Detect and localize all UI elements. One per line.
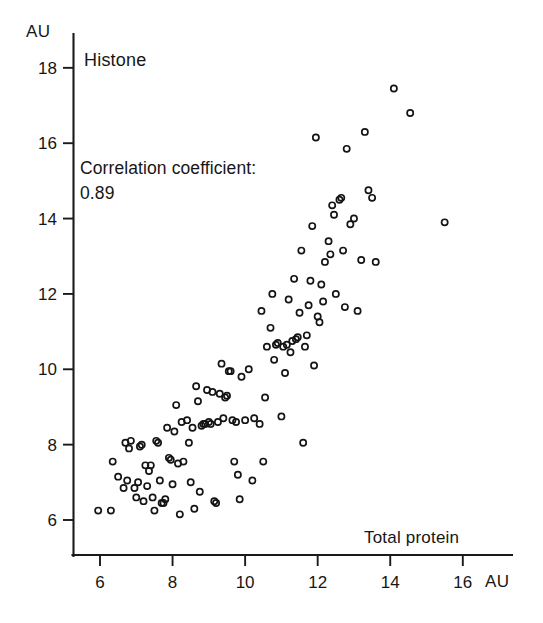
y-tick-label: 12 (38, 285, 57, 304)
y-tick-label: 16 (38, 134, 57, 153)
data-point (135, 479, 141, 485)
data-point (235, 472, 241, 478)
data-point (133, 494, 139, 500)
data-point (189, 425, 195, 431)
data-point (333, 291, 339, 297)
data-point (351, 215, 357, 221)
data-point (177, 511, 183, 517)
data-point (150, 494, 156, 500)
data-point (197, 489, 203, 495)
y-axis-ticks: 681012141618 (38, 59, 74, 530)
data-point (278, 413, 284, 419)
data-point (309, 223, 315, 229)
data-point (344, 146, 350, 152)
data-point (365, 187, 371, 193)
data-point (358, 257, 364, 263)
data-point (193, 383, 199, 389)
x-tick-label: 6 (95, 573, 104, 592)
data-point (407, 110, 413, 116)
y-tick-label: 18 (38, 59, 57, 78)
data-point (144, 483, 150, 489)
x-tick-label: 10 (236, 573, 255, 592)
data-point (271, 357, 277, 363)
x-axis-ticks: 6810121416 (95, 554, 472, 592)
data-point (369, 195, 375, 201)
data-point (442, 219, 448, 225)
y-tick-label: 8 (48, 436, 57, 455)
data-point (246, 366, 252, 372)
data-point (260, 459, 266, 465)
data-point (331, 212, 337, 218)
data-point (120, 485, 126, 491)
data-point (291, 276, 297, 282)
data-point (115, 474, 121, 480)
data-point (373, 259, 379, 265)
data-point (108, 507, 114, 513)
x-tick-label: 12 (308, 573, 327, 592)
data-point (327, 251, 333, 257)
data-point (124, 477, 130, 483)
data-point (218, 361, 224, 367)
data-point (95, 507, 101, 513)
data-point (258, 308, 264, 314)
data-point (237, 496, 243, 502)
data-point (262, 394, 268, 400)
data-point (173, 402, 179, 408)
data-point (164, 425, 170, 431)
data-point (186, 440, 192, 446)
plot-canvas: 681012141618 6810121416 (0, 0, 543, 623)
data-point (329, 202, 335, 208)
y-tick-label: 14 (38, 210, 57, 229)
axes-group (73, 34, 513, 556)
data-point (302, 344, 308, 350)
data-point (313, 134, 319, 140)
data-point (140, 498, 146, 504)
data-point (257, 421, 263, 427)
data-point (242, 417, 248, 423)
data-point (318, 281, 324, 287)
data-point (157, 477, 163, 483)
scatter-plot-figure: AU Histone Correlation coefficient: 0.89… (0, 0, 543, 623)
data-point (296, 310, 302, 316)
x-tick-label: 8 (168, 573, 177, 592)
data-point (340, 247, 346, 253)
data-point (320, 298, 326, 304)
data-point (354, 308, 360, 314)
data-point (362, 129, 368, 135)
data-point (231, 459, 237, 465)
data-point (307, 278, 313, 284)
data-point (151, 507, 157, 513)
data-point (171, 428, 177, 434)
data-point (287, 349, 293, 355)
data-point (322, 259, 328, 265)
data-point (238, 374, 244, 380)
data-point (286, 296, 292, 302)
data-point (267, 325, 273, 331)
data-point (195, 398, 201, 404)
data-point (304, 332, 310, 338)
data-point (298, 247, 304, 253)
data-point (220, 415, 226, 421)
data-point (110, 459, 116, 465)
data-point (169, 481, 175, 487)
data-point (311, 362, 317, 368)
x-tick-label: 16 (453, 573, 472, 592)
data-point (300, 440, 306, 446)
x-tick-label: 14 (381, 573, 400, 592)
data-point (391, 85, 397, 91)
y-tick-label: 6 (48, 511, 57, 530)
data-points-group (95, 85, 448, 517)
data-point (269, 291, 275, 297)
y-tick-label: 10 (38, 360, 57, 379)
data-point (306, 302, 312, 308)
data-point (191, 506, 197, 512)
data-point (126, 445, 132, 451)
data-point (325, 238, 331, 244)
data-point (342, 304, 348, 310)
data-point (282, 370, 288, 376)
data-point (249, 477, 255, 483)
data-point (188, 479, 194, 485)
data-point (264, 344, 270, 350)
data-point (251, 415, 257, 421)
